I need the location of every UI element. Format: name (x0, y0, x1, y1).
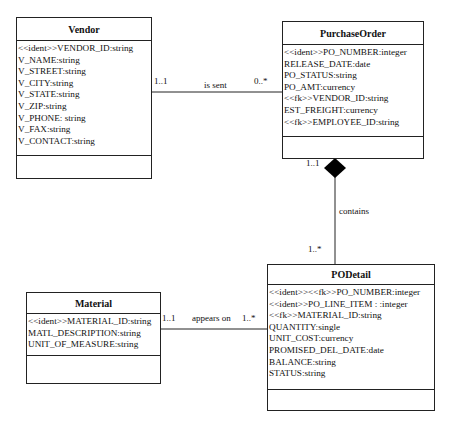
purchase-order-class-name: PurchaseOrder (283, 22, 423, 45)
po-detail-class[interactable]: PODetail <<ident>><<fk>>PO_NUMBER:intege… (267, 264, 435, 411)
material-class-name: Material (27, 293, 160, 314)
attribute: PO_STATUS:string (284, 70, 423, 82)
attribute: UNIT_OF_MEASURE:string (28, 339, 160, 351)
composition-diamond-icon (324, 158, 346, 178)
attribute: EST_FREIGHT:currency (284, 105, 423, 117)
material-class[interactable]: Material <<ident>>MATERIAL_ID:string MAT… (26, 292, 161, 384)
appears-on-to-multiplicity: 1..* (242, 313, 256, 323)
vendor-attributes: <<ident>>VENDOR_ID:string V_NAME:string … (17, 41, 151, 156)
attribute: V_STATE:string (18, 89, 151, 101)
is-sent-label: is sent (204, 80, 227, 90)
attribute: PROMISED_DEL_DATE:date (269, 345, 434, 357)
attribute: <<fk>>VENDOR_ID:string (284, 93, 423, 105)
appears-on-from-multiplicity: 1..1 (162, 313, 176, 323)
attribute: BALANCE:string (269, 357, 434, 369)
contains-from-multiplicity: 1..1 (306, 158, 320, 168)
material-attributes: <<ident>>MATERIAL_ID:string MATL_DESCRIP… (27, 314, 160, 356)
vendor-class-name: Vendor (17, 18, 151, 41)
po-detail-class-name: PODetail (268, 265, 434, 285)
is-sent-to-multiplicity: 0..* (254, 76, 268, 86)
contains-to-multiplicity: 1..* (308, 244, 322, 254)
attribute: <<ident>>PO_LINE_ITEM : :integer (269, 299, 434, 311)
attribute: <<ident>><<fk>>PO_NUMBER:integer (269, 287, 434, 299)
attribute: V_NAME:string (18, 55, 151, 67)
attribute: RELEASE_DATE:date (284, 59, 423, 71)
po-detail-attributes: <<ident>><<fk>>PO_NUMBER:integer <<ident… (268, 285, 434, 390)
attribute: V_FAX:string (18, 124, 151, 136)
attribute: PO_AMT:currency (284, 82, 423, 94)
is-sent-from-multiplicity: 1..1 (154, 76, 168, 86)
contains-label: contains (339, 206, 369, 216)
purchase-order-class[interactable]: PurchaseOrder <<ident>>PO_NUMBER:integer… (282, 21, 424, 159)
attribute: V_CONTACT:string (18, 136, 151, 148)
attribute: UNIT_COST:currency (269, 333, 434, 345)
attribute: <<fk>>EMPLOYEE_ID:string (284, 117, 423, 129)
attribute: STATUS:string (269, 368, 434, 380)
attribute: MATL_DESCRIPTION:string (28, 328, 160, 340)
vendor-class[interactable]: Vendor <<ident>>VENDOR_ID:string V_NAME:… (16, 17, 152, 179)
purchase-order-attributes: <<ident>>PO_NUMBER:integer RELEASE_DATE:… (283, 45, 423, 137)
attribute: QUANTITY:single (269, 322, 434, 334)
attribute: V_ZIP:string (18, 101, 151, 113)
attribute: <<ident>>MATERIAL_ID:string (28, 316, 160, 328)
attribute: V_STREET:string (18, 66, 151, 78)
appears-on-label: appears on (192, 313, 231, 323)
attribute: <<ident>>PO_NUMBER:integer (284, 47, 423, 59)
attribute: V_PHONE: string (18, 113, 151, 125)
attribute: <<fk>>MATERIAL_ID:string (269, 310, 434, 322)
attribute: V_CITY:string (18, 78, 151, 90)
attribute: <<ident>>VENDOR_ID:string (18, 43, 151, 55)
